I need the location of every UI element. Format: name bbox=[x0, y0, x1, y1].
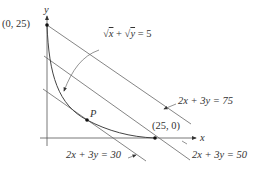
curve-equation-label: √x + √y = 5 bbox=[103, 29, 151, 40]
line-label-50: 2x + 3y = 50 bbox=[192, 150, 247, 161]
line50-leader bbox=[182, 141, 187, 144]
line30-leader bbox=[128, 155, 136, 158]
x-axis-label: x bbox=[200, 133, 205, 144]
point-label-p: P bbox=[90, 109, 96, 120]
point-label-25-0: (25, 0) bbox=[152, 121, 180, 132]
line-label-75: 2x + 3y = 75 bbox=[178, 96, 233, 107]
y-axis-label: y bbox=[44, 5, 49, 16]
point-p bbox=[85, 118, 89, 122]
point-label-0-25: (0, 25) bbox=[2, 19, 30, 30]
diagram-canvas bbox=[0, 0, 265, 172]
curve-leader bbox=[64, 50, 99, 91]
point-0-25 bbox=[45, 23, 49, 27]
point-25-0 bbox=[153, 136, 157, 140]
constraint-curve bbox=[47, 25, 155, 138]
line-label-30: 2x + 3y = 30 bbox=[66, 150, 121, 161]
